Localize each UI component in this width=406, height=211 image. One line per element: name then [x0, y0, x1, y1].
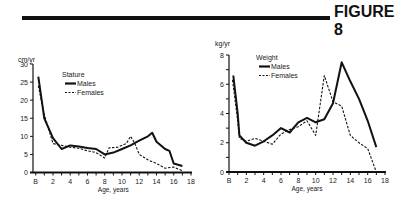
x-tick-label: 16 — [364, 177, 372, 184]
weight-males-line — [233, 62, 376, 147]
y-tick-label: 20 — [20, 97, 28, 104]
x-tick-label: 2 — [51, 178, 55, 185]
legend-title: Stature — [62, 71, 85, 78]
x-tick-label: 4 — [68, 178, 72, 185]
charts-canvas: 051015202530B24681012141618Age, yearscm/… — [0, 0, 406, 211]
x-tick-label: 4 — [262, 177, 266, 184]
x-tick-label: 8 — [296, 177, 300, 184]
y-tick-label: 4 — [220, 110, 224, 117]
y-tick-label: 0 — [220, 169, 224, 176]
stature-females-line — [38, 86, 182, 171]
y-tick-label: 15 — [20, 115, 28, 122]
x-tick-label: 8 — [103, 178, 107, 185]
stature-chart: 051015202530B24681012141618Age, yearscm/… — [18, 56, 195, 194]
x-tick-label: 10 — [118, 178, 126, 185]
legend-label-males: Males — [271, 63, 290, 70]
x-axis-label: Age, years — [98, 186, 130, 194]
x-tick-label: 16 — [170, 178, 178, 185]
y-axis-unit: kg/yr — [215, 40, 231, 48]
y-tick-label: 10 — [20, 133, 28, 140]
x-tick-label: 2 — [244, 177, 248, 184]
x-tick-label: 12 — [135, 178, 143, 185]
x-tick-label: 18 — [187, 178, 195, 185]
stature-males-line — [38, 77, 182, 166]
y-tick-label: 2 — [220, 139, 224, 146]
y-tick-label: 25 — [20, 79, 28, 86]
x-tick-label: 14 — [153, 178, 161, 185]
legend-label-males: Males — [77, 80, 96, 87]
x-tick-label: 6 — [279, 177, 283, 184]
x-tick-label: 6 — [86, 178, 90, 185]
y-tick-label: 6 — [220, 81, 224, 88]
legend-label-females: Females — [77, 89, 104, 96]
x-tick-label: 14 — [346, 177, 354, 184]
legend-label-females: Females — [271, 72, 298, 79]
y-axis-unit: cm/yr — [18, 56, 36, 64]
x-tick-label: 12 — [329, 177, 337, 184]
x-tick-label: 10 — [312, 177, 320, 184]
y-tick-label: 8 — [220, 52, 224, 59]
x-tick-label: B — [227, 177, 232, 184]
x-tick-label: B — [33, 178, 38, 185]
x-axis-label: Age, years — [291, 185, 323, 193]
weight-chart: 02468B24681012141618Age, yearskg/yrWeigh… — [215, 40, 389, 193]
legend-title: Weight — [256, 54, 278, 62]
y-tick-label: 5 — [24, 151, 28, 158]
x-tick-label: 18 — [381, 177, 389, 184]
y-tick-label: 0 — [24, 169, 28, 176]
